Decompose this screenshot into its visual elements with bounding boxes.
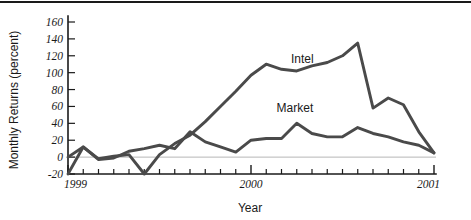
x-axis-tick-label: 2001 [417,178,440,190]
line-chart: -20020406080100120140160 199920002001 In… [0,0,471,220]
series-label-intel: Intel [291,52,314,66]
y-axis-tick-label: 40 [52,117,64,129]
y-axis-tick-labels-group: -20020406080100120140160 [46,16,64,180]
y-axis-ticks-group [68,22,75,174]
y-axis-tick-label: 120 [46,50,64,62]
x-axis-tick-label: 2000 [240,178,263,190]
x-axis-title: Year [238,201,262,215]
series-annotations-group: IntelMarket [277,52,314,116]
series-label-market: Market [277,101,314,115]
x-axis-tick-label: 1999 [64,178,87,190]
y-axis-tick-label: 160 [46,16,64,28]
y-axis-title: Monthly Returns (percent) [7,31,21,170]
chart-container: -20020406080100120140160 199920002001 In… [0,0,471,220]
y-axis-tick-label: 80 [52,84,64,96]
y-axis-tick-label: 20 [52,134,64,146]
y-axis-tick-label: 100 [46,67,64,79]
y-axis-tick-label: -20 [48,168,64,180]
x-axis-ticks-group [68,165,434,174]
y-axis-tick-label: 60 [52,100,64,112]
x-axis-tick-labels-group: 199920002001 [64,178,440,190]
series-group [68,43,434,174]
y-axis-tick-label: 0 [57,151,63,163]
y-axis-tick-label: 140 [46,33,64,45]
series-line-market [68,123,434,159]
axes-group [68,16,436,174]
